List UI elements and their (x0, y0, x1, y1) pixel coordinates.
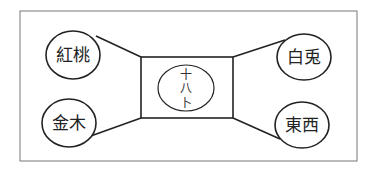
connector-top-left (96, 36, 141, 57)
node-top-right-label: 白兎 (287, 47, 321, 67)
center-label-3: 卜 (180, 96, 192, 110)
diagram: 十 八 卜 紅桃 金木 白兎 東西 (0, 0, 375, 174)
node-top-left-label: 紅桃 (56, 45, 90, 65)
connector-bottom-right (233, 118, 280, 139)
node-bottom-left-label: 金木 (52, 113, 86, 133)
center-label-2: 八 (180, 82, 192, 96)
center-label-1: 十 (180, 68, 192, 82)
node-bottom-right-label: 東西 (285, 115, 319, 135)
